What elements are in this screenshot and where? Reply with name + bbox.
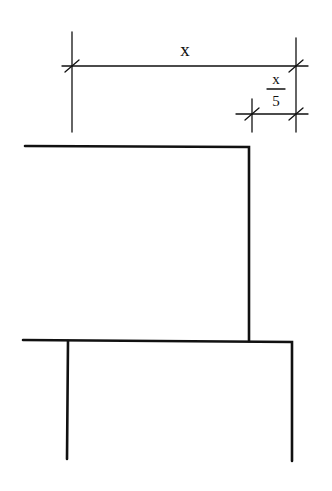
overall-dimension-label: x bbox=[180, 39, 190, 60]
upper-member bbox=[25, 146, 249, 341]
lower-member-left-leg bbox=[67, 341, 68, 459]
offset-label-denominator: 5 bbox=[272, 93, 280, 109]
lower-member-top-and-right-leg bbox=[23, 340, 292, 461]
diagram-canvas: x x 5 bbox=[0, 0, 332, 491]
offset-label-numerator: x bbox=[272, 71, 280, 87]
